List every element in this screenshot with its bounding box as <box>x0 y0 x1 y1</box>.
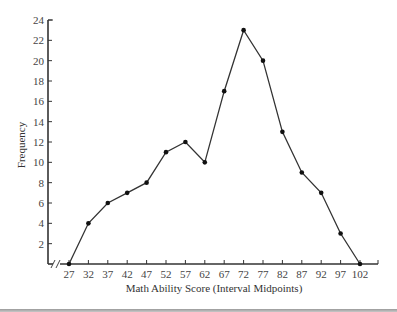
data-point <box>280 130 285 135</box>
y-axis-title: Frequency <box>15 121 27 168</box>
frequency-polygon-chart: 24681012141618202224 2732374247525762677… <box>0 0 397 312</box>
x-tick-label: 42 <box>122 268 133 280</box>
data-point <box>300 170 305 175</box>
data-point <box>338 231 343 236</box>
y-tick-label: 22 <box>33 34 44 46</box>
data-point <box>261 58 266 63</box>
frequency-line <box>69 30 360 264</box>
x-tick-label: 57 <box>180 268 192 280</box>
y-tick-label: 6 <box>39 197 45 209</box>
data-point-markers <box>67 28 363 266</box>
y-tick-label: 2 <box>39 238 45 250</box>
data-point <box>106 201 111 206</box>
y-tick-label: 16 <box>33 95 45 107</box>
y-tick-label: 18 <box>33 75 45 87</box>
data-point <box>183 140 188 145</box>
x-tick-label: 47 <box>141 268 153 280</box>
data-point <box>125 191 130 196</box>
y-tick-label: 10 <box>33 156 45 168</box>
x-tick-label: 62 <box>199 268 210 280</box>
y-tick-label: 4 <box>39 217 45 229</box>
data-point <box>164 150 169 155</box>
data-point <box>319 191 324 196</box>
y-tick-label: 12 <box>33 136 44 148</box>
x-axis-title: Math Ability Score (Interval Midpoints) <box>126 282 303 295</box>
x-tick-label: 92 <box>316 268 327 280</box>
x-tick-label: 52 <box>161 268 172 280</box>
y-tick-label: 20 <box>33 55 45 67</box>
data-point <box>222 89 227 94</box>
y-tick-label: 14 <box>33 116 45 128</box>
x-tick-label: 32 <box>83 268 94 280</box>
x-tick-label: 67 <box>219 268 231 280</box>
x-tick-label: 27 <box>64 268 76 280</box>
data-point <box>203 160 208 165</box>
y-tick-label: 24 <box>33 14 45 26</box>
y-axis-ticks: 24681012141618202224 <box>33 14 53 250</box>
data-point <box>241 28 246 33</box>
x-tick-label: 37 <box>102 268 114 280</box>
y-tick-label: 8 <box>39 177 45 189</box>
data-point <box>144 180 149 185</box>
x-tick-label: 87 <box>296 268 308 280</box>
data-point <box>86 221 91 226</box>
data-point <box>358 262 363 267</box>
x-tick-label: 82 <box>277 268 288 280</box>
x-tick-label: 97 <box>335 268 347 280</box>
x-axis <box>48 260 378 264</box>
data-point <box>67 262 72 267</box>
x-axis-ticks: 273237424752576267727782879297102 <box>64 260 369 280</box>
x-tick-label: 102 <box>352 268 369 280</box>
x-tick-label: 77 <box>258 268 270 280</box>
x-tick-label: 72 <box>238 268 249 280</box>
